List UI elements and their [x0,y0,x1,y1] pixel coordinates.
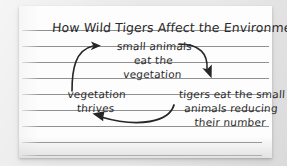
node-line: thrives [66,101,125,115]
node-line: eat the [116,53,192,67]
node-line: animals reducing [178,101,285,115]
node-line: tigers eat the small [178,87,285,101]
node-line: small animals [116,39,192,53]
diagram-node-tigers-eat: tigers eat the small animals reducing th… [177,87,286,129]
node-line: vegetation [115,67,191,81]
node-line: their number [177,115,284,129]
node-line: vegetation [67,87,126,101]
screenshot-canvas: How Wild Tigers Affect the Environment s… [0,0,287,166]
ruled-notebook-sheet: How Wild Tigers Affect the Environment s… [19,6,272,158]
diagram-node-small-animals: small animals eat the vegetation [115,39,193,81]
arrow-vegetation-to-small-animals-icon [72,41,101,91]
page-title: How Wild Tigers Affect the Environment [52,22,287,35]
diagram-node-vegetation-thrives: vegetation thrives [66,87,126,115]
